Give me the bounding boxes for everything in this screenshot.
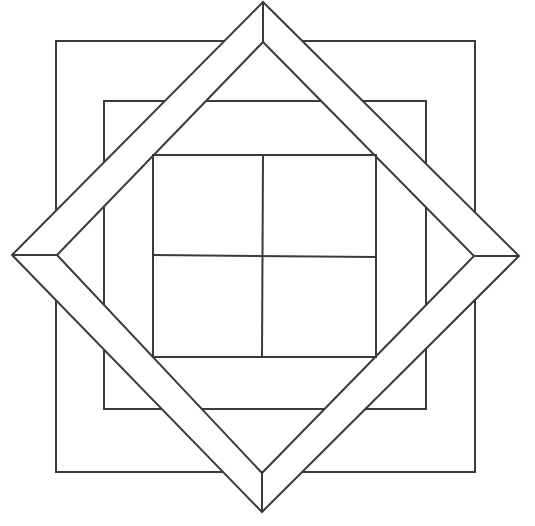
inner-grid <box>153 155 376 357</box>
geometric-figure <box>0 0 535 526</box>
grid-horizontal-divider <box>153 255 376 257</box>
